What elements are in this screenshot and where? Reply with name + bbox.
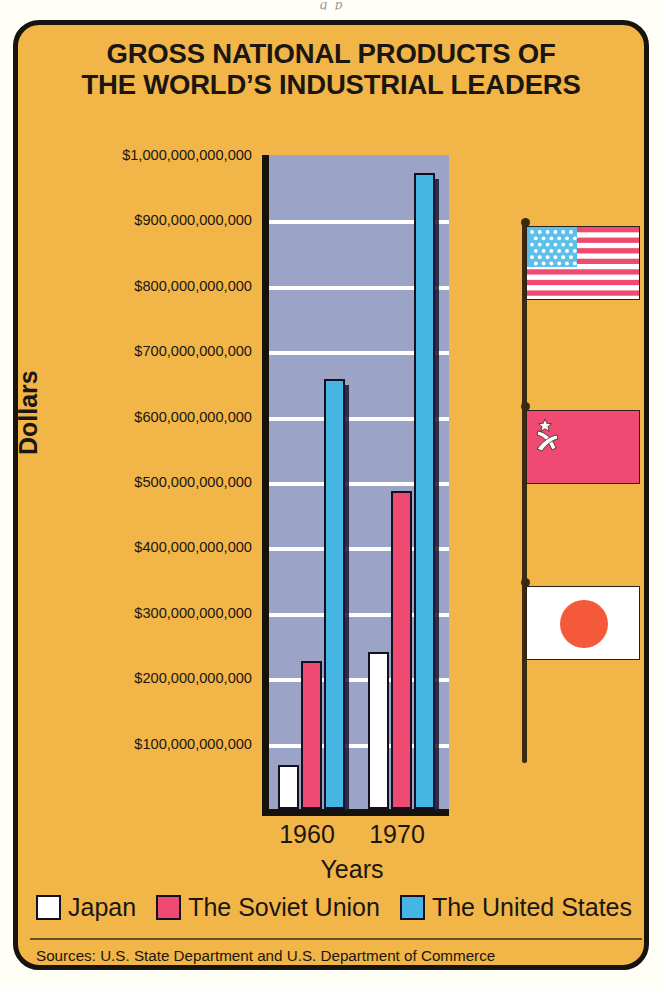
chart-card: GROSS NATIONAL PRODUCTS OF THE WORLD’S I… [13,20,649,970]
y-axis-tick-label: $300,000,000,000 [134,605,252,621]
legend-swatch-icon [36,895,61,920]
bar-the-united-states-1960[interactable] [324,379,345,809]
y-axis-title: Dollars [14,370,43,455]
y-axis-tick-labels: $100,000,000,000$200,000,000,000$300,000… [76,155,252,809]
x-axis-title: Years [262,855,442,884]
united-states-flag-canvas [526,226,640,300]
bar-group-container [269,155,449,809]
bar-japan-1970[interactable] [368,652,389,809]
x-axis-tick-label-1970: 1970 [342,820,452,849]
chart-title: GROSS NATIONAL PRODUCTS OF THE WORLD’S I… [18,39,644,101]
legend-item-the-soviet-union[interactable]: The Soviet Union [156,893,380,922]
legend-item-japan[interactable]: Japan [36,893,136,922]
sources-note: Sources: U.S. State Department and U.S. … [36,947,495,964]
bar-the-soviet-union-1970[interactable] [391,491,412,809]
legend-item-the-united-states[interactable]: The United States [400,893,632,922]
y-axis-tick-label: $200,000,000,000 [134,670,252,686]
legend-label: The United States [432,893,632,922]
chart-legend: JapanThe Soviet UnionThe United States [36,893,636,922]
legend-label: The Soviet Union [188,893,380,922]
plot-area [262,155,449,816]
japan-flag [522,583,646,763]
y-axis-tick-label: $700,000,000,000 [134,343,252,359]
legend-swatch-icon [156,895,181,920]
bar-japan-1960[interactable] [278,765,299,809]
legend-swatch-icon [400,895,425,920]
page-remnant-text: g p [0,0,664,10]
footer-divider [30,938,642,940]
y-axis-tick-label: $900,000,000,000 [134,212,252,228]
soviet-union-flag [522,407,646,585]
chart-title-line-2: THE WORLD’S INDUSTRIAL LEADERS [18,70,644,101]
united-states-flag [522,223,646,415]
soviet-union-flag-canvas [526,410,640,484]
japan-flag-canvas [526,586,640,660]
y-axis-tick-label: $500,000,000,000 [134,474,252,490]
legend-label: Japan [68,893,136,922]
chart-title-line-1: GROSS NATIONAL PRODUCTS OF [18,39,644,70]
y-axis-tick-label: $600,000,000,000 [134,409,252,425]
y-axis-tick-label: $100,000,000,000 [134,736,252,752]
bar-the-united-states-1970[interactable] [414,173,435,809]
bar-the-soviet-union-1960[interactable] [301,661,322,809]
y-axis-tick-label: $800,000,000,000 [134,278,252,294]
y-axis-tick-label: $400,000,000,000 [134,539,252,555]
y-axis-tick-label: $1,000,000,000,000 [122,147,252,163]
